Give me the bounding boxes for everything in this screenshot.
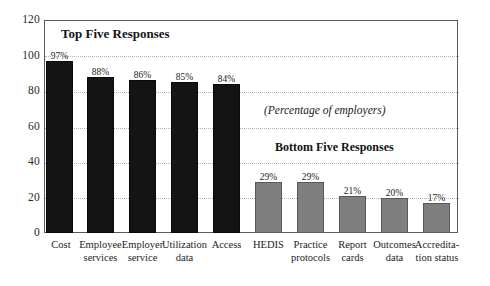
- y-tick-60: 60: [2, 121, 40, 133]
- bar-cost[interactable]: 97%: [46, 61, 73, 233]
- bar-utilization-data[interactable]: 85%: [171, 82, 198, 233]
- bar-value-label: 21%: [344, 186, 361, 196]
- bar-value-label: 29%: [260, 172, 277, 182]
- bar-value-label: 84%: [218, 74, 235, 84]
- bar-employee-services[interactable]: 88%: [87, 77, 114, 233]
- x-label-line1: Accredita-: [406, 238, 468, 251]
- bar-chart-figure: 120 100 80 60 40 20 0 Top Five Responses…: [0, 0, 490, 286]
- y-tick-40: 40: [2, 156, 40, 168]
- bar-value-label: 20%: [386, 188, 403, 198]
- bar-value-label: 88%: [92, 67, 109, 77]
- y-tick-20: 20: [2, 192, 40, 204]
- bar-accreditation-status[interactable]: 17%: [423, 203, 450, 233]
- bar-report-cards[interactable]: 21%: [339, 196, 366, 233]
- bar-access[interactable]: 84%: [213, 84, 240, 233]
- bar-hedis[interactable]: 29%: [255, 182, 282, 234]
- bar-value-label: 85%: [176, 72, 193, 82]
- x-label-accreditation-status: Accredita- tion status: [406, 238, 468, 264]
- y-tick-80: 80: [2, 85, 40, 97]
- x-label-line2: tion status: [406, 251, 468, 264]
- bar-outcomes-data[interactable]: 20%: [381, 198, 408, 234]
- bar-employer-service[interactable]: 86%: [129, 80, 156, 233]
- x-axis: Cost Employee services Employer service …: [44, 238, 458, 282]
- y-tick-0: 0: [2, 227, 40, 239]
- y-tick-120: 120: [2, 14, 40, 26]
- bar-value-label: 86%: [134, 70, 151, 80]
- bar-value-label: 29%: [302, 172, 319, 182]
- x-label-line2: data: [155, 251, 214, 264]
- bar-value-label: 17%: [428, 193, 445, 203]
- bar-value-label: 97%: [51, 51, 68, 61]
- bar-practice-protocols[interactable]: 29%: [297, 182, 324, 234]
- bars-group: 97% 88% 86% 85% 84% 29% 29% 21% 20% 17%: [44, 20, 458, 233]
- y-tick-100: 100: [2, 50, 40, 62]
